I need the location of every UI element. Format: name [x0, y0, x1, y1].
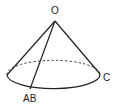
right-slant-edge [55, 21, 100, 74]
label-apex-o: O [51, 6, 59, 16]
base-ellipse-front [7, 74, 100, 89]
left-slant-edge [7, 21, 55, 75]
label-c: C [103, 73, 110, 83]
cone-figure [0, 0, 114, 107]
cone-diagram: O AB C [0, 0, 114, 107]
base-ellipse-back [7, 60, 100, 75]
label-ab: AB [23, 94, 36, 104]
generatrix-line-oab [30, 21, 55, 89]
